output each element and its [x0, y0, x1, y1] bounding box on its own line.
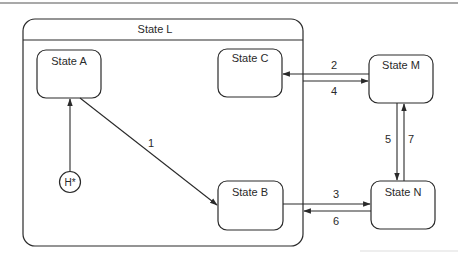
transition-1-label: 1 [148, 137, 154, 149]
state-b: State B [218, 181, 283, 230]
state-diagram: State L State A State C State B State M … [0, 0, 458, 260]
transition-3-label: 3 [333, 188, 339, 200]
state-c: State C [218, 49, 282, 97]
transition-6-label: 6 [333, 215, 339, 227]
transition-1-arrow [80, 98, 217, 205]
state-a-label: State A [51, 55, 87, 67]
state-b-label: State B [232, 186, 268, 198]
state-a: State A [37, 50, 101, 98]
state-m-label: State M [382, 59, 420, 71]
state-c-label: State C [232, 52, 269, 64]
state-n-label: State N [385, 186, 422, 198]
transition-7-label: 7 [408, 133, 414, 145]
state-l-label: State L [138, 23, 173, 35]
transition-5-label: 5 [385, 133, 391, 145]
state-n: State N [371, 181, 435, 229]
history-state: H* [60, 172, 81, 193]
transition-4-label: 4 [331, 85, 337, 97]
history-label: H* [64, 177, 75, 188]
transition-2-label: 2 [331, 59, 337, 71]
state-m: State M [369, 55, 433, 103]
